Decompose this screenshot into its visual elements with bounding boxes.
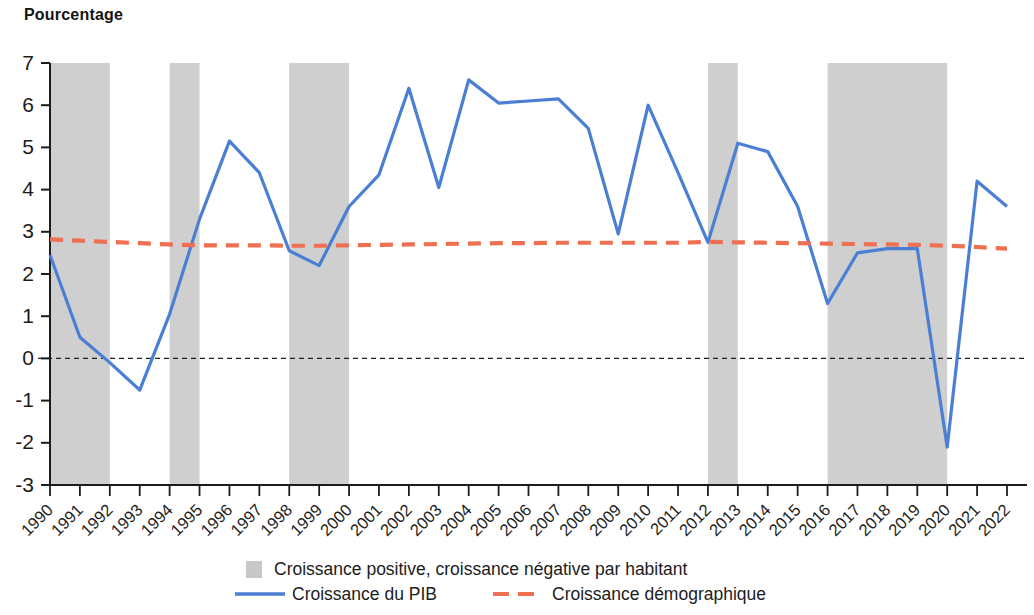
x-axis-tick-label: 2017	[825, 500, 864, 539]
shaded-band	[708, 63, 738, 485]
x-axis-tick-label: 2004	[436, 500, 475, 539]
x-axis-tick-label: 2022	[974, 500, 1013, 539]
x-axis-tick-label: 1992	[77, 500, 116, 539]
x-axis-tick-label: 2020	[915, 500, 954, 539]
x-axis-tick-label: 1995	[167, 500, 206, 539]
x-axis-tick-label: 1990	[17, 500, 56, 539]
x-axis-tick-label: 1991	[47, 500, 86, 539]
y-axis-tick-label: 6	[22, 93, 34, 116]
x-axis-group: 1990199119921993199419951996199719981999…	[17, 485, 1027, 539]
x-axis-tick-label: 2015	[765, 500, 804, 539]
legend-band-label: Croissance positive, croissance négative…	[274, 559, 688, 579]
x-axis-tick-label: 2001	[346, 500, 385, 539]
x-axis-tick-label: 2012	[675, 500, 714, 539]
y-axis-tick-label: -1	[15, 388, 34, 411]
x-axis-tick-label: 2005	[466, 500, 505, 539]
y-axis-tick-label: 0	[22, 346, 34, 369]
x-axis-tick-label: 2018	[855, 500, 894, 539]
x-axis-tick-label: 2009	[586, 500, 625, 539]
legend-demographic-label: Croissance démographique	[552, 584, 766, 604]
x-axis-tick-label: 2013	[705, 500, 744, 539]
y-axis-tick-label: 3	[22, 219, 34, 242]
chart-legend: Croissance positive, croissance négative…	[235, 559, 766, 604]
x-axis-tick-label: 1999	[287, 500, 326, 539]
x-axis-tick-label: 1996	[197, 500, 236, 539]
x-axis-tick-label: 2014	[735, 500, 774, 539]
y-axis-tick-label: 5	[22, 135, 34, 158]
x-axis-tick-label: 2006	[496, 500, 535, 539]
shaded-band	[50, 63, 110, 485]
x-axis-tick-label: 2019	[885, 500, 924, 539]
chart-container: Pourcentage 76543210-1-2-3 1990199119921…	[0, 0, 1034, 615]
x-axis-tick-label: 1994	[137, 500, 176, 539]
shaded-bands-group	[50, 63, 947, 485]
y-axis-tick-label: 2	[22, 262, 34, 285]
x-axis-tick-label: 1998	[257, 500, 296, 539]
line-chart-svg: 76543210-1-2-3 1990199119921993199419951…	[0, 0, 1034, 615]
x-axis-tick-label: 1997	[227, 500, 266, 539]
legend-gdp-label: Croissance du PIB	[292, 584, 437, 604]
x-axis-tick-label: 2002	[376, 500, 415, 539]
legend-band-swatch	[246, 561, 262, 578]
y-axis-tick-label: 1	[22, 304, 34, 327]
x-axis-tick-label: 2010	[616, 500, 655, 539]
x-axis-tick-label: 2021	[945, 500, 984, 539]
x-axis-tick-label: 2011	[646, 500, 684, 538]
y-axis-tick-label: 4	[22, 177, 34, 200]
x-axis-tick-label: 2000	[316, 500, 355, 539]
shaded-band	[170, 63, 200, 485]
x-axis-tick-label: 2016	[795, 500, 834, 539]
x-axis-tick-label: 1993	[107, 500, 146, 539]
shaded-band	[289, 63, 349, 485]
y-axis-tick-label: -2	[15, 430, 34, 453]
y-axis-tick-label: 7	[22, 51, 34, 74]
x-axis-tick-label: 2008	[556, 500, 595, 539]
x-axis-tick-label: 2007	[526, 500, 565, 539]
y-axis-tick-label: -3	[15, 473, 34, 496]
y-axis-group: 76543210-1-2-3	[15, 51, 50, 496]
x-axis-tick-label: 2003	[406, 500, 445, 539]
